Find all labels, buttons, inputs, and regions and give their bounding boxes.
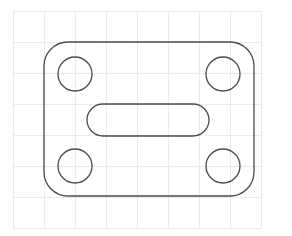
- technical-drawing: [0, 0, 292, 236]
- drawing-canvas: [0, 0, 292, 236]
